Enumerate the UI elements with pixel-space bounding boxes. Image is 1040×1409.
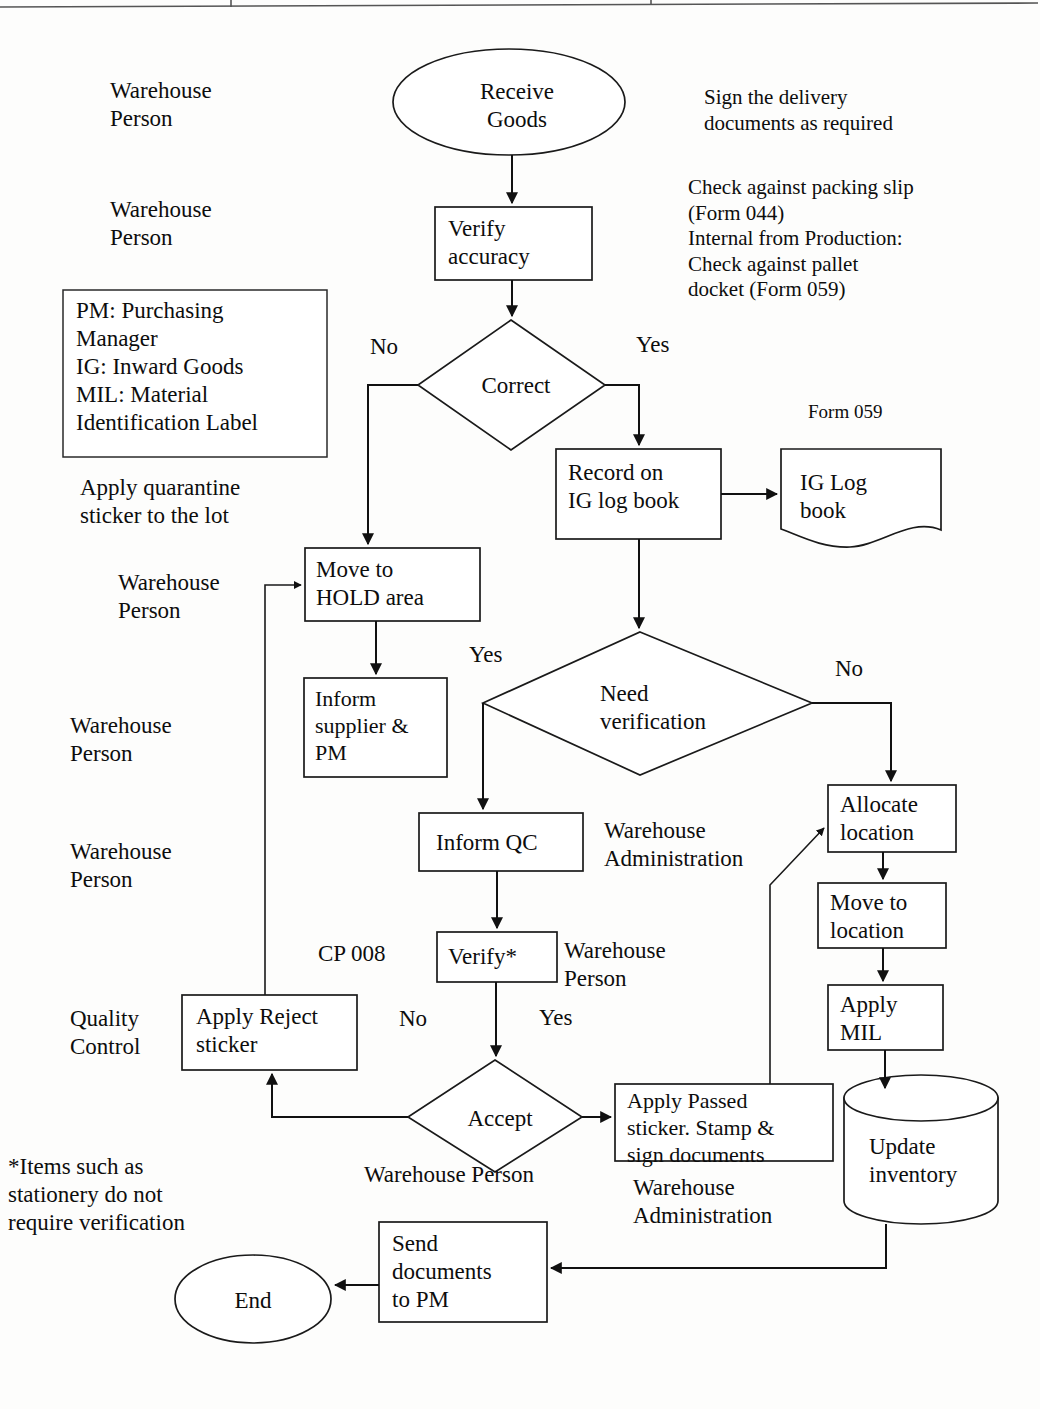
annotation-form-059: Form 059	[808, 400, 882, 423]
edge-accept-no-to-apply-reject	[272, 1074, 408, 1117]
role-label-6-quality-control: Quality Control	[70, 1005, 240, 1061]
node-label-record-ig-log: Record on IG log book	[568, 459, 728, 515]
annotation-apply-quarantine: Apply quarantine sticker to the lot	[80, 474, 330, 530]
annotation-check-packing-slip: Check against packing slip (Form 044) In…	[688, 175, 1008, 303]
role-label-4: Warehouse Person	[70, 712, 240, 768]
legend-abbreviations: PM: Purchasing Manager IG: Inward Goods …	[76, 297, 326, 437]
edge-label-need-verification-no: No	[835, 655, 863, 683]
node-label-apply-passed-sticker: Apply Passed sticker. Stamp & sign docum…	[627, 1088, 837, 1168]
node-label-inform-qc: Inform QC	[436, 829, 596, 857]
role-label-2: Warehouse Person	[110, 196, 280, 252]
node-label-update-inventory: Update inventory	[869, 1133, 989, 1189]
node-label-correct: Correct	[451, 372, 581, 400]
role-label-warehouse-person-mid: Warehouse Person	[564, 937, 754, 993]
node-label-move-to-location: Move to location	[830, 889, 950, 945]
edge-update-inventory-to-send-documents	[551, 1224, 886, 1268]
edge-apply-reject-to-hold	[265, 585, 301, 995]
annotation-footnote-verification: *Items such as stationery do not require…	[8, 1153, 248, 1237]
scan-table-rule	[0, 0, 1038, 7]
role-label-3: Warehouse Person	[118, 569, 288, 625]
node-label-verify-star: Verify*	[448, 943, 558, 971]
role-label-warehouse-administration-2: Warehouse Administration	[633, 1174, 853, 1230]
edge-label-accept-no: No	[399, 1005, 427, 1033]
node-label-accept: Accept	[455, 1105, 545, 1133]
flowchart-page: Receive Goods Verify accuracy Correct Re…	[0, 0, 1040, 1409]
role-label-1: Warehouse Person	[110, 77, 280, 133]
annotation-cp-008: CP 008	[318, 940, 386, 968]
annotation-sign-delivery: Sign the delivery documents as required	[704, 85, 994, 136]
node-label-apply-mil: Apply MIL	[840, 991, 945, 1047]
edge-label-accept-yes: Yes	[539, 1004, 572, 1032]
role-label-warehouse-person-accept: Warehouse Person	[364, 1161, 644, 1189]
node-label-need-verification: Need verification	[600, 680, 760, 736]
edge-label-correct-yes: Yes	[636, 331, 669, 359]
edge-correct-yes-to-record	[605, 385, 639, 445]
role-label-warehouse-administration-1: Warehouse Administration	[604, 817, 814, 873]
edge-need-verification-no-to-allocate	[812, 703, 891, 781]
node-label-send-documents-to-pm: Send documents to PM	[392, 1230, 542, 1314]
node-label-verify-accuracy: Verify accuracy	[448, 215, 588, 271]
node-label-move-to-hold: Move to HOLD area	[316, 556, 486, 612]
edge-correct-no-to-hold	[368, 385, 418, 544]
node-label-ig-log-book: IG Log book	[800, 469, 940, 525]
node-label-end: End	[213, 1287, 293, 1315]
node-label-receive-goods: Receive Goods	[452, 78, 582, 134]
node-label-allocate-location: Allocate location	[840, 791, 960, 847]
node-label-inform-supplier-pm: Inform supplier & PM	[315, 686, 455, 766]
edge-label-need-verification-yes: Yes	[469, 641, 502, 669]
edge-label-correct-no: No	[370, 333, 398, 361]
role-label-5: Warehouse Person	[70, 838, 240, 894]
